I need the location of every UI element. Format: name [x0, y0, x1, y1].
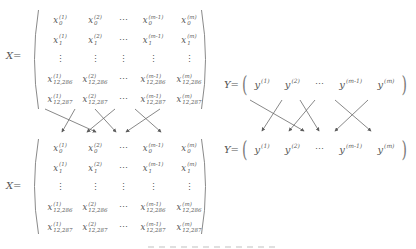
dots: ⋯ [119, 202, 128, 212]
shuffle-arrows-y [240, 96, 390, 138]
math-entry: x(2)0 [88, 14, 102, 27]
vector-y-original-label: Y= [224, 79, 239, 90]
math-entry: x(2)12,286 [82, 201, 107, 214]
dots: ⋮ [185, 182, 194, 192]
math-entry: x(2)1 [88, 33, 102, 46]
dots: ⋮ [185, 54, 194, 64]
shuffle-arrows-x [38, 106, 173, 138]
vector-y-original: Y= ( y(1)y(2)⋯y(m-1)y(m) ) [224, 72, 407, 96]
math-entry: y(2) [285, 79, 300, 90]
math-entry: x(1)12,287 [47, 221, 72, 234]
math-entry: x(2)1 [88, 161, 102, 174]
math-entry: x(m-1)12,287 [140, 221, 165, 234]
math-entry: x(2)12,286 [82, 73, 107, 86]
dots: ⋮ [149, 182, 158, 192]
math-entry: x(m-1)0 [143, 142, 164, 155]
dots: ⋯ [119, 94, 128, 104]
dots: ⋮ [91, 54, 100, 64]
math-entry: x(m-1)12,287 [140, 93, 165, 106]
math-entry: x(1)0 [53, 14, 67, 27]
math-entry: x(m-1)12,286 [140, 201, 165, 214]
figure-canvas: X= x(1)0x(2)0⋯x(m-1)0x(m)0x(1)1x(2)1⋯x(m… [0, 0, 416, 249]
matrix-left-paren [30, 9, 40, 110]
matrix-right-paren [200, 138, 210, 235]
math-entry: y(1) [254, 144, 269, 155]
math-entry: x(m-1)1 [143, 33, 164, 46]
dots: ⋮ [149, 54, 158, 64]
dots: ⋮ [119, 182, 128, 192]
math-entry: y(m-1) [339, 144, 362, 155]
math-entry: x(m)12,287 [176, 221, 201, 234]
matrix-grid: x(1)0x(2)0⋯x(m-1)0x(m)0x(1)1x(2)1⋯x(m-1)… [42, 10, 206, 109]
math-entry: y(m-1) [339, 79, 362, 90]
matrix-x-shuffled-label: X= [6, 180, 22, 191]
math-entry: x(m)1 [181, 161, 196, 174]
dots: ⋮ [56, 182, 65, 192]
dots: ⋮ [119, 54, 128, 64]
math-entry: x(m)12,286 [176, 201, 201, 214]
math-entry: x(1)12,286 [47, 73, 72, 86]
vector-entries: y(1)y(2)⋯y(m-1)y(m) [254, 144, 394, 155]
math-entry: x(m-1)12,286 [140, 73, 165, 86]
math-entry: x(1)1 [53, 33, 67, 46]
dots: ⋯ [315, 79, 324, 89]
math-entry: y(m) [377, 79, 394, 90]
vector-left-paren: ( [242, 73, 247, 95]
dots: ⋯ [119, 143, 128, 153]
dots: ⋮ [56, 54, 65, 64]
dots: ⋯ [119, 35, 128, 45]
dots: ⋯ [119, 15, 128, 25]
dots: ⋮ [91, 182, 100, 192]
math-entry: x(m)1 [181, 33, 196, 46]
matrix-x-original-label: X= [6, 50, 22, 61]
vector-right-paren: ) [401, 138, 406, 160]
dots: ⋯ [315, 144, 324, 154]
vector-entries: y(1)y(2)⋯y(m-1)y(m) [254, 79, 394, 90]
matrix-left-paren [30, 138, 40, 235]
dots: ⋯ [119, 74, 128, 84]
math-entry: x(1)1 [53, 161, 67, 174]
dots: ⋯ [119, 163, 128, 173]
math-entry: x(m)0 [181, 142, 196, 155]
matrix-x-shuffled: X= x(1)0x(2)0⋯x(m-1)0x(m)0x(1)1x(2)1⋯x(m… [2, 134, 214, 242]
math-entry: y(1) [254, 79, 269, 90]
math-entry: x(1)12,286 [47, 201, 72, 214]
math-entry: x(2)0 [88, 142, 102, 155]
math-entry: x(1)12,287 [47, 93, 72, 106]
vector-right-paren: ) [401, 73, 406, 95]
vector-left-paren: ( [242, 138, 247, 160]
math-entry: y(2) [285, 144, 300, 155]
math-entry: x(2)12,287 [82, 221, 107, 234]
math-entry: x(2)12,287 [82, 93, 107, 106]
math-entry: x(m)12,287 [176, 93, 201, 106]
math-entry: x(m)12,286 [176, 73, 201, 86]
dots: ⋯ [119, 222, 128, 232]
matrix-x-original: X= x(1)0x(2)0⋯x(m-1)0x(m)0x(1)1x(2)1⋯x(m… [2, 6, 214, 114]
math-entry: x(m)0 [181, 14, 196, 27]
math-entry: x(m-1)0 [143, 14, 164, 27]
math-entry: y(m) [377, 144, 394, 155]
matrix-grid: x(1)0x(2)0⋯x(m-1)0x(m)0x(1)1x(2)1⋯x(m-1)… [42, 138, 206, 237]
vector-y-shuffled: Y= ( y(1)y(2)⋯y(m-1)y(m) ) [224, 137, 407, 161]
math-entry: x(m-1)1 [143, 161, 164, 174]
math-entry: x(1)0 [53, 142, 67, 155]
vector-y-shuffled-label: Y= [224, 144, 239, 155]
matrix-right-paren [200, 9, 210, 110]
figure-caption-cropped [148, 246, 280, 248]
